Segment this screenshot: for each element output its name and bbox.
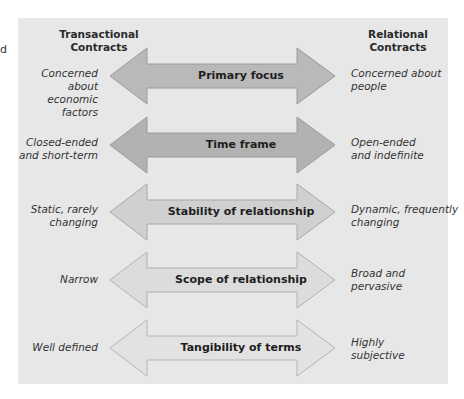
text-line: Concerned about — [18, 67, 98, 93]
text-line: changing — [351, 216, 464, 229]
contracts-comparison-diagram: Transactional Contracts Relational Contr… — [18, 18, 448, 384]
text-line: Open-ended — [351, 136, 464, 149]
scope-of-relationship-label: Scope of relationship — [146, 273, 336, 286]
text-line: and indefinite — [351, 149, 464, 162]
text-line: Closed-ended — [18, 136, 98, 149]
relational-tangibility: Highly subjective — [351, 336, 464, 362]
text-line: Well defined — [18, 341, 98, 354]
relational-stability: Dynamic, frequently changing — [351, 203, 464, 229]
text-line: Highly — [351, 336, 464, 349]
relational-time-frame: Open-ended and indefinite — [351, 136, 464, 162]
transactional-stability: Static, rarely changing — [18, 203, 98, 229]
transactional-scope: Narrow — [18, 273, 98, 286]
text-line: changing — [18, 216, 98, 229]
transactional-tangibility: Well defined — [18, 341, 98, 354]
text-line: subjective — [351, 349, 464, 362]
text-line: economic factors — [18, 93, 98, 119]
time-frame-label: Time frame — [146, 138, 336, 151]
text-line: Concerned about — [351, 67, 464, 80]
primary-focus-label: Primary focus — [146, 69, 336, 82]
text-line: Narrow — [18, 273, 98, 286]
text-line: people — [351, 80, 464, 93]
text-line: and short-term — [18, 149, 98, 162]
stability-of-relationship-label: Stability of relationship — [146, 205, 336, 218]
text-line: Static, rarely — [18, 203, 98, 216]
relational-primary-focus: Concerned about people — [351, 67, 464, 93]
relational-scope: Broad and pervasive — [351, 267, 464, 293]
text-line: Broad and — [351, 267, 464, 280]
transactional-primary-focus: Concerned about economic factors — [18, 67, 98, 119]
cropped-text-fragment: d — [0, 43, 7, 56]
text-line: Dynamic, frequently — [351, 203, 464, 216]
transactional-time-frame: Closed-ended and short-term — [18, 136, 98, 162]
tangibility-of-terms-label: Tangibility of terms — [146, 341, 336, 354]
text-line: pervasive — [351, 280, 464, 293]
